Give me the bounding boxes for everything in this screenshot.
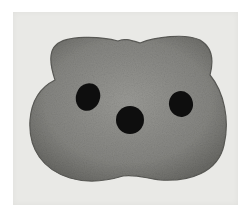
tissue-section-illustration: [0, 0, 248, 215]
center-hole: [116, 106, 144, 134]
